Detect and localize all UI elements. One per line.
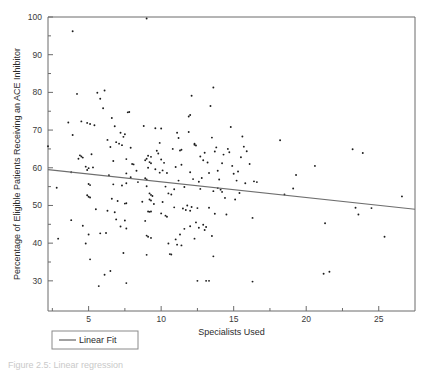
data-point bbox=[125, 172, 127, 174]
data-point bbox=[147, 236, 149, 238]
y-tick-label: 80 bbox=[33, 87, 43, 97]
data-point bbox=[111, 117, 113, 119]
data-point bbox=[178, 137, 180, 139]
data-point bbox=[233, 173, 235, 175]
y-tick-label: 30 bbox=[33, 276, 43, 286]
data-point bbox=[183, 228, 185, 230]
scatter-plot: 30405060708090100510152025Specialists Us… bbox=[0, 0, 433, 370]
data-point bbox=[202, 159, 204, 161]
data-point bbox=[109, 270, 111, 272]
axis-labels-group: 30405060708090100510152025Specialists Us… bbox=[12, 12, 384, 337]
data-point bbox=[231, 165, 233, 167]
data-point bbox=[211, 235, 213, 237]
data-point bbox=[78, 158, 80, 160]
data-point bbox=[150, 211, 152, 213]
data-point bbox=[189, 225, 191, 227]
data-point bbox=[214, 213, 216, 215]
y-tick-label: 40 bbox=[33, 238, 43, 248]
data-point bbox=[98, 285, 100, 287]
data-point bbox=[160, 128, 162, 130]
data-point bbox=[212, 190, 214, 192]
data-point bbox=[95, 208, 97, 210]
x-tick-label: 15 bbox=[229, 314, 239, 324]
data-point bbox=[112, 160, 114, 162]
data-point bbox=[86, 122, 88, 124]
data-point bbox=[150, 156, 152, 158]
data-point bbox=[199, 188, 201, 190]
data-point bbox=[221, 162, 223, 164]
data-point bbox=[253, 180, 255, 182]
data-point bbox=[181, 244, 183, 246]
data-point bbox=[137, 181, 139, 183]
data-point bbox=[189, 114, 191, 116]
data-point bbox=[125, 158, 127, 160]
data-point bbox=[72, 30, 74, 32]
data-point bbox=[121, 185, 123, 187]
data-point bbox=[86, 169, 88, 171]
data-point bbox=[115, 218, 117, 220]
data-point bbox=[205, 226, 207, 228]
data-point bbox=[195, 145, 197, 147]
data-point bbox=[401, 195, 403, 197]
data-point bbox=[76, 93, 78, 95]
data-point bbox=[198, 181, 200, 183]
data-point bbox=[67, 122, 69, 124]
data-point bbox=[324, 222, 326, 224]
data-point bbox=[80, 120, 82, 122]
data-point bbox=[362, 152, 364, 154]
data-point bbox=[144, 159, 146, 161]
data-point bbox=[159, 142, 161, 144]
data-point bbox=[115, 141, 117, 143]
data-point bbox=[86, 194, 88, 196]
data-point bbox=[323, 273, 325, 275]
data-point bbox=[240, 156, 242, 158]
data-point bbox=[146, 158, 148, 160]
data-point bbox=[204, 229, 206, 231]
data-point bbox=[223, 154, 225, 156]
linear-fit-line-path bbox=[48, 170, 415, 210]
data-point bbox=[125, 202, 127, 204]
data-point bbox=[170, 254, 172, 256]
data-point bbox=[194, 238, 196, 240]
data-point bbox=[85, 243, 87, 245]
data-point bbox=[224, 197, 226, 199]
data-point bbox=[179, 234, 181, 236]
data-point bbox=[212, 87, 214, 89]
data-point bbox=[220, 189, 222, 191]
y-tick-label: 70 bbox=[33, 125, 43, 135]
data-point bbox=[182, 208, 184, 210]
data-point bbox=[178, 180, 180, 182]
data-point bbox=[208, 280, 210, 282]
data-point bbox=[146, 185, 148, 187]
data-point bbox=[241, 136, 243, 138]
data-point bbox=[130, 147, 132, 149]
data-point bbox=[215, 146, 217, 148]
data-point bbox=[252, 281, 254, 283]
data-point bbox=[175, 238, 177, 240]
data-point bbox=[153, 203, 155, 205]
data-point bbox=[165, 186, 167, 188]
data-point bbox=[124, 220, 126, 222]
data-point bbox=[89, 197, 91, 199]
data-point bbox=[210, 105, 212, 107]
x-tick-label: 25 bbox=[374, 314, 384, 324]
data-point bbox=[183, 186, 185, 188]
data-point bbox=[208, 207, 210, 209]
data-point bbox=[117, 200, 119, 202]
data-point bbox=[167, 243, 169, 245]
data-point bbox=[198, 227, 200, 229]
data-point bbox=[237, 171, 239, 173]
data-point bbox=[89, 184, 91, 186]
data-point bbox=[205, 280, 207, 282]
data-point bbox=[279, 139, 281, 141]
data-point bbox=[234, 198, 236, 200]
data-point bbox=[189, 171, 191, 173]
linear-fit-line bbox=[48, 170, 415, 210]
data-point bbox=[185, 209, 187, 211]
data-point bbox=[151, 195, 153, 197]
data-point bbox=[192, 178, 194, 180]
data-point bbox=[130, 176, 132, 178]
data-point bbox=[146, 18, 148, 20]
data-point bbox=[371, 207, 373, 209]
data-point bbox=[176, 132, 178, 134]
